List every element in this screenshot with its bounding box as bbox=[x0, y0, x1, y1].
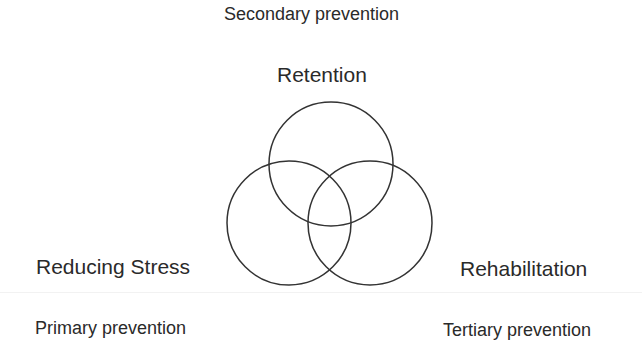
divider bbox=[0, 292, 642, 293]
venn-diagram bbox=[0, 0, 642, 347]
rehabilitation-circle bbox=[308, 161, 432, 285]
retention-circle bbox=[269, 102, 393, 226]
tertiary-prevention-caption: Tertiary prevention bbox=[443, 320, 591, 341]
reducing-stress-label: Reducing Stress bbox=[36, 255, 190, 279]
rehabilitation-label: Rehabilitation bbox=[460, 257, 587, 281]
primary-prevention-caption: Primary prevention bbox=[35, 318, 186, 339]
reducing-stress-circle bbox=[227, 161, 351, 285]
